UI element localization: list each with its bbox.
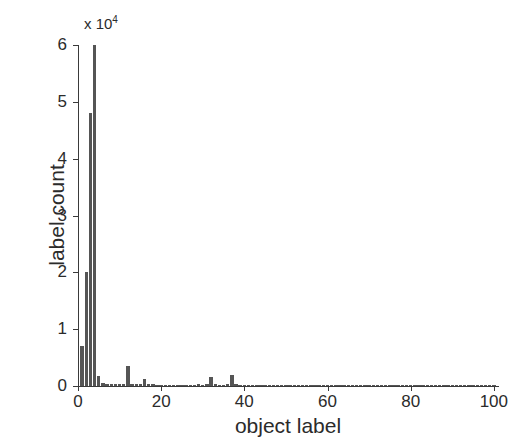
bar [326,385,329,386]
bar [334,385,337,386]
bar [280,385,283,386]
bar [488,385,491,386]
bar [255,385,258,386]
bar [305,385,308,386]
bar [338,385,341,386]
bar [126,366,129,386]
bar [209,377,212,386]
x-tick-mark [244,386,245,391]
bar [243,385,246,386]
bar [317,385,320,386]
bar [184,385,187,386]
bar-series [78,45,498,386]
bar [330,385,333,386]
bar [359,385,362,386]
x-tick-mark [161,386,162,391]
bar [430,385,433,386]
bar [89,113,92,386]
bar [114,384,117,386]
bar [101,383,104,386]
x-tick-mark [328,386,329,391]
bar [471,385,474,386]
bar [421,385,424,386]
bar [143,379,146,386]
bar [376,385,379,386]
bar [401,385,404,386]
bar [380,385,383,386]
bar [118,384,121,386]
bar [384,385,387,386]
bar [438,385,441,386]
bar [388,385,391,386]
bar [197,384,200,386]
bar [426,385,429,386]
bar [451,385,454,386]
bar [135,384,138,386]
bar [164,385,167,386]
bar [80,346,83,386]
y-tick-mark [73,386,78,387]
bar [392,385,395,386]
bar [189,385,192,386]
bar [301,385,304,386]
bar [247,385,250,386]
bar [322,385,325,386]
bar [434,385,437,386]
bar [417,385,420,386]
bar [97,376,100,386]
bar [372,385,375,386]
bar [263,385,266,386]
bar [409,385,412,386]
y-tick-label: 1 [58,319,67,339]
bar [159,385,162,386]
bar [218,385,221,386]
x-tick-label: 80 [401,392,420,412]
x-axis-title: object label [235,414,341,438]
bar [272,385,275,386]
bar [309,385,312,386]
bar [297,385,300,386]
y-tick-label: 6 [58,35,67,55]
bar [110,384,113,386]
bar [463,385,466,386]
bar [180,385,183,386]
bar [288,385,291,386]
bar [105,384,108,386]
x-tick-label: 0 [73,392,82,412]
bar [284,385,287,386]
bar [413,385,416,386]
bar [168,385,171,386]
bar [367,385,370,386]
bar [276,385,279,386]
x-tick-label: 100 [480,392,508,412]
bar [172,385,175,386]
bar [176,385,179,386]
bar [342,385,345,386]
bar [293,385,296,386]
bar [355,385,358,386]
plot-area [78,45,498,386]
bar [130,384,133,386]
y-tick-label: 5 [58,92,67,112]
bar [251,385,254,386]
y-axis-multiplier: x 104 [84,14,118,32]
bar [238,385,241,386]
bar [93,45,96,386]
chart-figure: x 104 0204060801000123456 object label l… [0,0,516,448]
bar [122,384,125,386]
x-tick-mark [411,386,412,391]
bar [259,385,262,386]
bar [396,385,399,386]
bar [155,385,158,386]
bar [363,385,366,386]
bar [214,384,217,386]
bar [226,384,229,386]
bar [201,385,204,386]
x-tick-mark [494,386,495,391]
bar [85,272,88,386]
bar [234,384,237,386]
bar [484,385,487,386]
bar [351,385,354,386]
bar [230,375,233,386]
x-tick-label: 60 [318,392,337,412]
